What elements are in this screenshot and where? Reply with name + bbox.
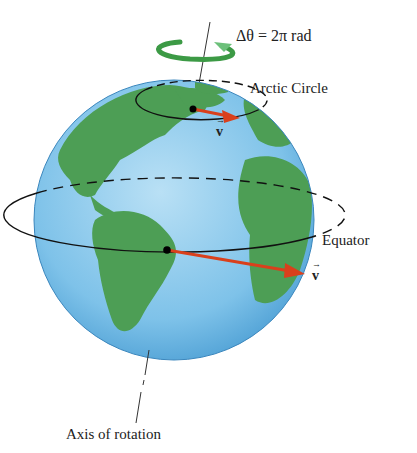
diagram-canvas: [0, 0, 417, 453]
axis-line-bottom: [136, 350, 149, 423]
vector-arrow-icon: →: [312, 259, 321, 269]
axis-of-rotation-label: Axis of rotation: [66, 426, 161, 443]
velocity-label-arctic: v→: [216, 124, 223, 140]
velocity-label-equator: v→: [312, 268, 319, 284]
arctic-circle-label: Arctic Circle: [250, 80, 328, 97]
rotation-angle-label: Δθ = 2π rad: [236, 27, 311, 45]
rotation-arrow-icon: [159, 42, 233, 59]
equator-label: Equator: [322, 232, 369, 249]
vector-arrow-icon: →: [216, 115, 225, 125]
earth-globe: [34, 80, 314, 361]
